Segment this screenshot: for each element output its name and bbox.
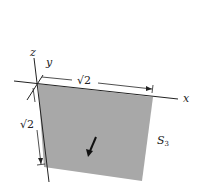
surface-diagram: z y x √2 √2 S3 — [0, 0, 199, 195]
dimension-tick-right — [152, 85, 153, 93]
z-axis-label: z — [29, 46, 36, 59]
dimension-top-left — [42, 77, 72, 80]
x-axis-label: x — [183, 92, 190, 105]
y-axis-label: y — [45, 56, 53, 69]
dimension-side-top — [33, 88, 35, 102]
surface-label: S3 — [157, 134, 169, 148]
surface-s3 — [38, 84, 153, 181]
side-dimension-label: √2 — [20, 118, 34, 131]
dimension-tick-bottom — [37, 164, 45, 165]
dimension-top-right — [98, 83, 152, 89]
top-dimension-label: √2 — [77, 74, 91, 87]
